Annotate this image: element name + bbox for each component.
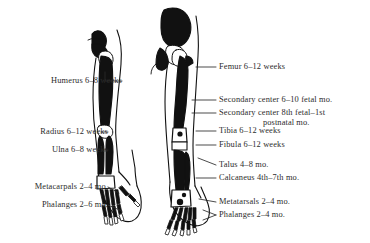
label-humerus: Humerus 6–8 weeks [51,76,122,86]
label-phalanges-hand: Phalanges 2–6 mo. [42,200,108,210]
label-calcaneus: Calcaneus 4th–7th mo. [219,173,299,183]
label-fibula: Fibula 6–12 weeks [219,140,285,150]
label-ulna: Ulna 6–8 weeks [52,145,108,155]
label-secondary-center-postnatal: Secondary center 8th fetal–1st [219,108,325,118]
label-femur: Femur 6–12 weeks [219,62,285,72]
label-secondary-center-fetal: Secondary center 6–10 fetal mo. [219,95,332,105]
label-radius: Radius 6–12 weeks [40,127,108,137]
label-talus: Talus 4–8 mo. [219,160,269,170]
label-metatarsals: Metatarsals 2–4 mo. [219,197,290,207]
label-metacarpals: Metacarpals 2–4 mo. [35,182,108,192]
ossification-figure: Humerus 6–8 weeks Radius 6–12 weeks Ulna… [0,0,370,243]
leader-talus [198,158,216,165]
label-tibia: Tibia 6–12 weeks [219,126,281,136]
label-phalanges-foot: Phalanges 2–4 mo. [219,210,285,220]
